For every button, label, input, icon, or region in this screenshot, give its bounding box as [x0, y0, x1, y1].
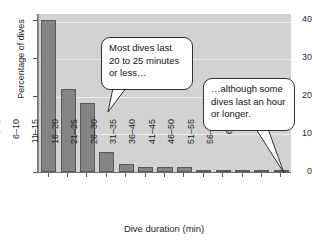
y-tick-label-10: 10 [290, 129, 312, 138]
x-tick-mark-51–55 [242, 173, 243, 177]
callout-although-some-text: …although some dives last an hour or lon… [211, 83, 288, 121]
x-tick-mark-46–50 [222, 173, 223, 177]
x-tick-mark-26–30 [145, 173, 146, 177]
callout-although-some: …although some dives last an hour or lon… [203, 78, 295, 131]
y-tick-label-40: 40 [290, 15, 312, 24]
y-axis-label: Percentage of dives [16, 19, 26, 99]
x-tick-mark-16–20 [106, 173, 107, 177]
x-tick-label-41–45: 41–45 [147, 119, 157, 179]
x-tick-label-31–35: 31–35 [108, 119, 118, 179]
x-tick-label-26–30: 26–30 [89, 119, 99, 179]
dive-duration-bar-chart: Percentage of dives 40 30 20 10 0 0–56–1… [0, 0, 312, 243]
x-tick-label-51–55: 51–55 [186, 119, 196, 179]
x-tick-label-11–15: 11–15 [30, 119, 40, 179]
x-tick-mark-56–60 [261, 173, 262, 177]
x-tick-mark-0–5 [48, 173, 49, 177]
x-tick-mark-11–15 [86, 173, 87, 177]
gridline-40 [39, 22, 291, 23]
x-tick-mark-36–40 [183, 173, 184, 177]
y-axis-label-container: Percentage of dives [10, 0, 24, 119]
x-tick-label-46–50: 46–50 [166, 119, 176, 179]
callout-most-dives: Most dives last 20 to 25 minutes or less… [101, 37, 193, 90]
callout-most-dives-text: Most dives last 20 to 25 minutes or less… [109, 42, 186, 80]
x-tick-mark-60+ [280, 173, 281, 177]
y-tick-label-30: 30 [290, 53, 312, 62]
y-tick-label-0: 0 [290, 167, 312, 176]
x-tick-mark-31–35 [164, 173, 165, 177]
x-tick-mark-6–10 [67, 173, 68, 177]
x-tick-label-0–5: 0–5 [0, 119, 2, 179]
x-tick-label-6–10: 6–10 [11, 119, 21, 179]
x-tick-mark-41–45 [203, 173, 204, 177]
x-tick-label-21–25: 21–25 [69, 119, 79, 179]
x-axis-label: Dive duration (min) [38, 223, 290, 235]
x-tick-label-36–40: 36–40 [127, 119, 137, 179]
x-tick-label-16–20: 16–20 [50, 119, 60, 179]
